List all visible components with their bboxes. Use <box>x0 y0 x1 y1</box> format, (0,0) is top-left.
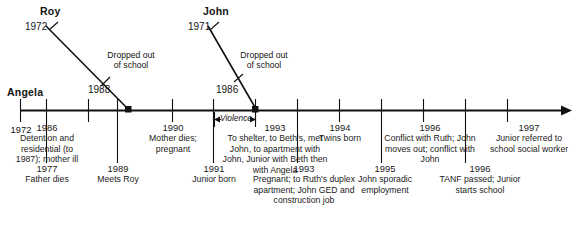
john-branch-tick <box>210 22 219 30</box>
event-1986-detention: 1986 Detention and residential (to 1987)… <box>11 122 83 165</box>
event-1994-twins-born: 1994 Twins born <box>306 122 374 144</box>
roy-birth-year: 1972 <box>25 21 47 33</box>
event-text: Meets Roy <box>93 174 143 184</box>
john-birth-year: 1971 <box>188 21 210 33</box>
event-1996-tanf-passed: 1996 TANF passed; Junior starts school <box>428 163 532 195</box>
event-year: 1996 <box>428 163 532 174</box>
event-text: Mother dies; pregnant <box>137 133 209 154</box>
person-label-roy: Roy <box>40 5 60 17</box>
event-year: 1991 <box>189 163 239 174</box>
roy-join-node <box>125 106 132 113</box>
john-dropout-annotation: Dropped out of school <box>229 50 299 70</box>
event-1995-john-sporadic: 1995 John sporadic employment <box>348 163 422 195</box>
john-join-year: 1986 <box>216 84 238 96</box>
event-year: 1986 <box>11 122 83 133</box>
event-1997-junior-referred: 1997 Junior referred to school social wo… <box>486 122 572 154</box>
event-1996-conflict-ruth: 1996 Conflict with Ruth; John moves out;… <box>384 122 476 165</box>
event-1977-father-dies: 1977 Father dies <box>22 163 72 185</box>
event-text: John sporadic employment <box>348 174 422 195</box>
axis-ticks-upper <box>21 99 508 110</box>
john-join-node <box>252 106 259 113</box>
event-1989-meets-roy: 1989 Meets Roy <box>93 163 143 185</box>
event-text: Conflict with Ruth; John moves out; conf… <box>384 133 476 164</box>
roy-join-year: 1988 <box>88 84 110 96</box>
event-year: 1977 <box>22 163 72 174</box>
event-year: 1994 <box>306 122 374 133</box>
person-label-john: John <box>203 5 229 17</box>
john-dropout-tick <box>234 74 243 82</box>
event-1991-junior-born: 1991 Junior born <box>189 163 239 185</box>
timeline-arrowhead <box>561 106 572 116</box>
roy-branch-tick <box>49 22 58 30</box>
event-year: 1993 <box>243 163 365 174</box>
event-year: 1996 <box>384 122 476 133</box>
event-1990-mother-dies: 1990 Mother dies; pregnant <box>137 122 209 154</box>
roy-dropout-annotation: Dropped out of school <box>96 50 166 70</box>
event-year: 1995 <box>348 163 422 174</box>
event-text: Father dies <box>22 174 72 184</box>
event-text: Pregnant; to Ruth's duplex apartment; Jo… <box>243 174 365 205</box>
event-year: 1990 <box>137 122 209 133</box>
person-label-angela: Angela <box>7 86 43 98</box>
event-1993-pregnant-duplex: 1993 Pregnant; to Ruth's duplex apartmen… <box>243 163 365 206</box>
event-year: 1989 <box>93 163 143 174</box>
event-text: Junior born <box>189 174 239 184</box>
event-text: Twins born <box>306 133 374 143</box>
event-text: TANF passed; Junior starts school <box>428 174 532 195</box>
event-text: Junior referred to school social worker <box>486 133 572 154</box>
event-text: Detention and residential (to 1987); mot… <box>11 133 83 164</box>
event-year: 1997 <box>486 122 572 133</box>
